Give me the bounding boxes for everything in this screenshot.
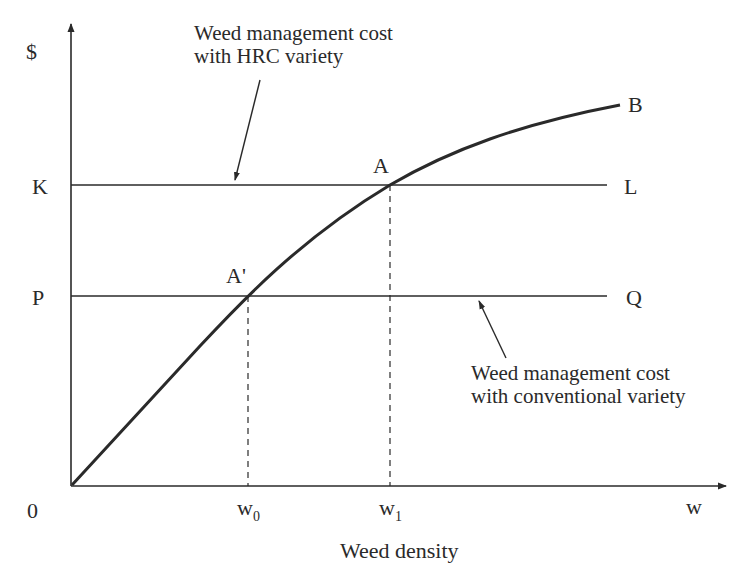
- tick-w1: w1: [379, 497, 402, 519]
- pointer-arrow-conventional: [479, 301, 506, 358]
- tick-w0: w0: [237, 497, 260, 519]
- label-B: B: [628, 94, 643, 116]
- y-axis-label: $: [26, 41, 37, 63]
- pointer-arrow-hrc: [235, 80, 260, 180]
- label-Q: Q: [626, 287, 642, 309]
- origin-label: 0: [27, 500, 38, 522]
- annotation-hrc-cost: Weed management cost with HRC variety: [194, 22, 393, 68]
- tick-w0-sub: 0: [253, 509, 260, 524]
- label-K: K: [32, 176, 48, 198]
- annotation-conventional-line1: Weed management cost: [471, 362, 686, 385]
- annotation-hrc-line2: with HRC variety: [194, 45, 393, 68]
- tick-w1-main: w: [379, 495, 395, 520]
- x-axis-end-label: w: [686, 496, 702, 518]
- tick-w0-main: w: [237, 495, 253, 520]
- label-L: L: [624, 176, 637, 198]
- label-A-prime: A': [226, 265, 246, 287]
- weed-management-diagram: $ K P 0 L Q B A A' w0 w1 w Weed density …: [0, 0, 754, 582]
- label-P: P: [32, 287, 44, 309]
- label-A: A: [373, 155, 389, 177]
- annotation-conventional-line2: with conventional variety: [471, 385, 686, 408]
- annotation-hrc-line1: Weed management cost: [194, 22, 393, 45]
- annotation-conventional-cost: Weed management cost with conventional v…: [471, 362, 686, 408]
- tick-w1-sub: 1: [395, 509, 402, 524]
- curve-0-B: [72, 105, 620, 485]
- x-axis-title: Weed density: [340, 540, 459, 562]
